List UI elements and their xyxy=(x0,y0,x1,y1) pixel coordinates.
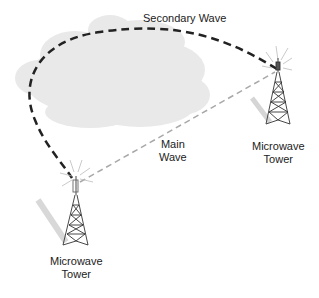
main-wave-label-line1: Main xyxy=(159,138,187,151)
tower-left-icon xyxy=(38,160,93,245)
tower-right-label-line1: Microwave xyxy=(252,140,305,153)
main-wave-label-line2: Wave xyxy=(159,151,187,164)
diagram-canvas: Secondary Wave Main Wave Microwave Tower… xyxy=(0,0,319,298)
tower-left-label-line1: Microwave xyxy=(50,255,103,268)
tower-right-label: Microwave Tower xyxy=(252,140,305,166)
tower-right-icon xyxy=(252,46,292,124)
tower-right-label-line2: Tower xyxy=(252,153,305,166)
secondary-wave-label: Secondary Wave xyxy=(143,12,226,25)
tower-left-label-line2: Tower xyxy=(50,268,103,281)
main-wave-label: Main Wave xyxy=(159,138,187,164)
tower-left-label: Microwave Tower xyxy=(50,255,103,281)
